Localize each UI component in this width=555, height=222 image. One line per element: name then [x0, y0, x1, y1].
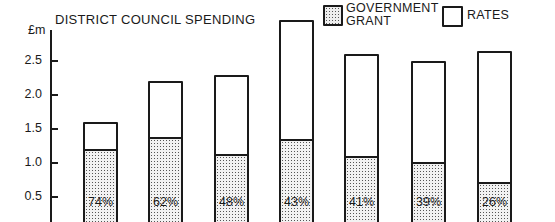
bar-percent-label: 43%: [281, 195, 312, 209]
y-tick: [51, 162, 58, 164]
stacked-bar: 62%: [148, 81, 183, 222]
stacked-bar: 26%: [477, 51, 512, 222]
y-tick: [51, 128, 58, 130]
y-axis: [50, 30, 52, 222]
y-tick-label: 0.5: [8, 189, 42, 203]
bar-segment-government-grant: [216, 154, 247, 222]
bar-segment-government-grant: [413, 162, 444, 222]
bar-percent-label: 39%: [413, 195, 444, 209]
y-tick: [51, 196, 58, 198]
stacked-bar: 41%: [344, 54, 379, 222]
bar-percent-label: 26%: [479, 195, 510, 209]
y-tick-label: 1.5: [8, 121, 42, 135]
legend-label-line2: GRANT: [346, 15, 439, 28]
y-tick: [51, 94, 58, 96]
y-tick: [51, 60, 58, 62]
bar-percent-label: 41%: [346, 195, 377, 209]
bar-percent-label: 62%: [150, 195, 181, 209]
stacked-bar: 39%: [411, 61, 446, 222]
y-axis-unit-label: £m: [28, 23, 45, 37]
bar-segment-government-grant: [150, 137, 181, 222]
stacked-bar: 43%: [279, 20, 314, 222]
bar-segment-government-grant: [85, 149, 116, 222]
bar-segment-government-grant: [281, 139, 312, 222]
legend-swatch-rates: [442, 6, 463, 27]
bar-percent-label: 74%: [85, 195, 116, 209]
legend-label-rates: RATES: [467, 9, 509, 22]
y-tick-label: 2.5: [8, 53, 42, 67]
legend-swatch-government-grant: [323, 5, 343, 26]
stacked-bar: 74%: [83, 122, 118, 222]
bar-percent-label: 48%: [216, 195, 247, 209]
bar-segment-government-grant: [346, 156, 377, 222]
legend-label-government-grant: GOVERNMENT GRANT: [346, 2, 439, 28]
y-tick-label: 2.0: [8, 87, 42, 101]
chart: DISTRICT COUNCIL SPENDING £m 0.51.01.52.…: [0, 0, 555, 222]
y-tick-label: 1.0: [8, 155, 42, 169]
stacked-bar: 48%: [214, 75, 249, 222]
chart-title: DISTRICT COUNCIL SPENDING: [55, 12, 255, 27]
